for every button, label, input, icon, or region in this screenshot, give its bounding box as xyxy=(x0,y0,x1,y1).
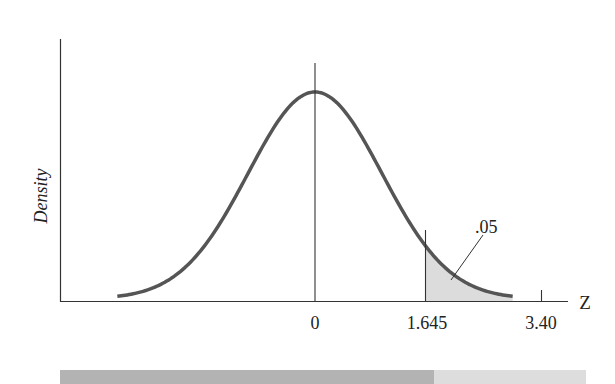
annotation-leader-line xyxy=(451,235,483,280)
rejection-region-bar xyxy=(434,370,586,384)
acceptance-region-bar xyxy=(60,370,434,384)
y-axis-label: Density xyxy=(31,168,51,224)
tick-label-critical: 1.645 xyxy=(407,313,448,333)
tick-label-statistic: 3.40 xyxy=(525,313,557,333)
tick-label-0: 0 xyxy=(311,313,320,333)
normal-distribution-chart: .05 0 1.645 3.40 Z Density xyxy=(0,0,615,384)
x-axis-label: Z xyxy=(579,292,591,313)
area-annotation: .05 xyxy=(475,217,498,237)
